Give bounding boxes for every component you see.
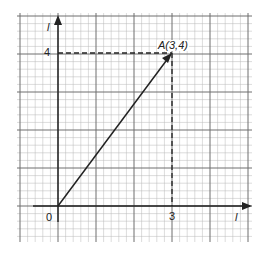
y-tick-label: 4 xyxy=(44,47,50,58)
major-grid xyxy=(17,13,252,242)
y-axis-label: l xyxy=(47,22,49,33)
x-tick-label: 3 xyxy=(169,211,175,222)
x-axis-label: l xyxy=(235,212,237,223)
x-axis-arrow-icon xyxy=(242,202,252,210)
origin-label: 0 xyxy=(46,212,52,223)
point-a-label: A(3,4) xyxy=(157,40,189,51)
graph-paper-figure xyxy=(0,0,266,254)
